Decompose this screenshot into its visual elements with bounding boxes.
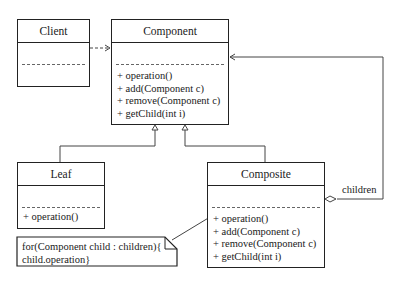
operation: + remove(Component c) xyxy=(117,95,220,108)
divider xyxy=(116,64,224,65)
divider xyxy=(212,207,320,208)
operation: + getChild(int i) xyxy=(213,251,316,264)
note-line: for(Component child : children){ xyxy=(22,240,172,253)
operation: + getChild(int i) xyxy=(117,108,220,121)
composite-operations: + operation() + add(Component c) + remov… xyxy=(213,213,316,263)
class-leaf-name: Leaf xyxy=(18,163,104,186)
class-client-name: Client xyxy=(18,20,89,43)
operation: + add(Component c) xyxy=(117,83,220,96)
class-composite[interactable]: Composite + operation() + add(Component … xyxy=(207,162,325,268)
operation: + remove(Component c) xyxy=(213,238,316,251)
operation: + operation() xyxy=(117,70,220,83)
class-composite-name: Composite xyxy=(208,163,324,186)
divider xyxy=(22,207,100,208)
component-operations: + operation() + add(Component c) + remov… xyxy=(117,70,220,120)
association-label: children xyxy=(342,184,376,195)
operation: + operation() xyxy=(23,211,78,224)
class-leaf[interactable]: Leaf + operation() xyxy=(17,162,105,229)
note-line: child.operation} xyxy=(22,253,172,266)
note: for(Component child : children){ child.o… xyxy=(17,237,177,266)
leaf-operations: + operation() xyxy=(23,211,78,224)
operation: + add(Component c) xyxy=(213,226,316,239)
class-component[interactable]: Component + operation() + add(Component … xyxy=(111,19,229,125)
operation: + operation() xyxy=(213,213,316,226)
class-component-name: Component xyxy=(112,20,228,43)
divider xyxy=(22,64,85,65)
class-client[interactable]: Client xyxy=(17,19,90,87)
